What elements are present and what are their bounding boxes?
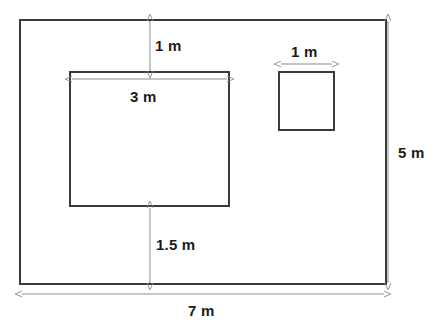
dimension-label-square-width: 1 m bbox=[291, 44, 317, 59]
dimension-label-overall-height: 5 m bbox=[398, 145, 424, 160]
small-square-block-rect bbox=[279, 72, 334, 130]
outer-room-rect bbox=[20, 20, 386, 284]
dimension-label-bottom-gap: 1.5 m bbox=[156, 237, 195, 252]
dimension-label-overall-width: 7 m bbox=[188, 303, 214, 318]
dimension-diagram: 1 m 3 m 1.5 m 1 m 5 m 7 m bbox=[0, 0, 443, 332]
dimension-label-inner-width: 3 m bbox=[130, 89, 156, 104]
dimension-label-top-gap: 1 m bbox=[155, 38, 181, 53]
diagram-canvas bbox=[0, 0, 443, 332]
